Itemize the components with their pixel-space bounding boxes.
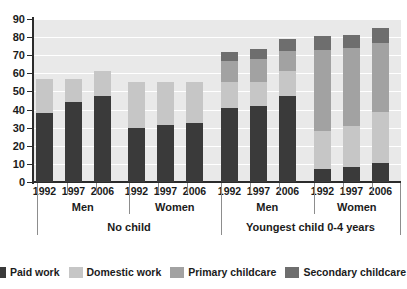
- x-axis-separator: [279, 183, 280, 194]
- bar-segment: [94, 71, 111, 96]
- bars-layer: [33, 19, 401, 182]
- bar-segment: [314, 50, 331, 132]
- bar-segment: [221, 61, 238, 83]
- bar-stack: [186, 82, 203, 183]
- x-axis-separator: [96, 183, 97, 194]
- y-tick-label: 40: [0, 105, 25, 115]
- bar-stack: [94, 71, 111, 182]
- bar-stack: [221, 52, 238, 182]
- legend-label: Primary childcare: [188, 266, 276, 278]
- group-label-sex: Women: [314, 201, 401, 213]
- legend-swatch-paid-work: [0, 267, 6, 278]
- bar-segment: [372, 163, 389, 182]
- y-tick-label: 90: [0, 14, 25, 24]
- bar-stack: [372, 28, 389, 182]
- bar-segment: [221, 82, 238, 107]
- bar-segment: [250, 82, 267, 106]
- y-tick-label: 30: [0, 123, 25, 133]
- legend-item[interactable]: Primary childcare: [170, 266, 276, 278]
- bar-segment: [343, 35, 360, 48]
- x-tick-label-year: 2006: [271, 185, 305, 197]
- bar-stack: [65, 79, 82, 182]
- y-tick-label: 10: [0, 159, 25, 169]
- bar-segment: [314, 36, 331, 50]
- group-label-sex: Men: [37, 201, 129, 213]
- bar-stack: [128, 82, 145, 183]
- bar-segment: [157, 82, 174, 125]
- y-tick-label: 80: [0, 32, 25, 42]
- bar-segment: [372, 112, 389, 163]
- bar-segment: [314, 169, 331, 182]
- bar-segment: [221, 52, 238, 61]
- legend-label: Domestic work: [87, 266, 162, 278]
- bar-segment: [372, 43, 389, 113]
- bar-segment: [221, 108, 238, 182]
- legend-label: Secondary childcare: [303, 266, 406, 278]
- bar-stack: [279, 39, 296, 182]
- bar-segment: [250, 59, 267, 83]
- bar-segment: [94, 96, 111, 182]
- supergroup-separator: [400, 183, 401, 235]
- supergroup-label: Youngest child 0-4 years: [221, 221, 400, 233]
- supergroup-label: No child: [37, 221, 221, 233]
- bar-segment: [314, 131, 331, 169]
- bar-segment: [343, 126, 360, 167]
- bar-segment: [128, 82, 145, 128]
- x-tick-label-year: 2006: [86, 185, 120, 197]
- x-axis-separator: [343, 183, 344, 194]
- bar-segment: [279, 39, 296, 51]
- legend-label: Paid work: [10, 266, 60, 278]
- x-axis-separator: [250, 183, 251, 194]
- bar-segment: [343, 48, 360, 126]
- bar-segment: [372, 28, 389, 42]
- bar-segment: [279, 71, 296, 96]
- group-label-sex: Men: [221, 201, 314, 213]
- bar-segment: [250, 49, 267, 59]
- legend-swatch-secondary-childcare: [285, 267, 299, 278]
- bar-stack: [314, 36, 331, 182]
- bar-stack: [36, 79, 53, 182]
- legend-swatch-primary-childcare: [170, 267, 184, 278]
- x-axis-separator: [158, 183, 159, 194]
- x-axis-separator: [67, 183, 68, 194]
- y-tick-label: 70: [0, 50, 25, 60]
- bar-stack: [157, 82, 174, 183]
- bar-stack: [250, 49, 267, 182]
- y-tick-label: 60: [0, 68, 25, 78]
- bar-segment: [343, 167, 360, 182]
- x-tick-label-year: 2006: [178, 185, 212, 197]
- stacked-bar-chart: 0102030405060708090 19921997200619921997…: [0, 0, 407, 289]
- x-axis-separator: [187, 183, 188, 194]
- x-axis-separator: [372, 183, 373, 194]
- bar-segment: [186, 82, 203, 124]
- group-label-sex: Women: [129, 201, 222, 213]
- bar-segment: [279, 96, 296, 182]
- bar-segment: [36, 113, 53, 182]
- y-tick-label: 20: [0, 141, 25, 151]
- bar-stack: [343, 35, 360, 182]
- legend-item[interactable]: Domestic work: [69, 266, 162, 278]
- bar-segment: [128, 128, 145, 182]
- bar-segment: [279, 51, 296, 71]
- bar-segment: [157, 125, 174, 182]
- bar-segment: [186, 123, 203, 182]
- y-tick-label: 50: [0, 86, 25, 96]
- bar-segment: [65, 102, 82, 182]
- legend-swatch-domestic-work: [69, 267, 83, 278]
- legend-item[interactable]: Paid work: [0, 266, 60, 278]
- chart-legend: Paid workDomestic workPrimary childcareS…: [0, 262, 407, 282]
- category-axis: 1992199720061992199720061992199720061992…: [0, 183, 407, 243]
- bar-segment: [250, 106, 267, 182]
- x-tick-label-year: 2006: [364, 185, 398, 197]
- bar-segment: [36, 79, 53, 113]
- bar-segment: [65, 79, 82, 103]
- legend-item[interactable]: Secondary childcare: [285, 266, 406, 278]
